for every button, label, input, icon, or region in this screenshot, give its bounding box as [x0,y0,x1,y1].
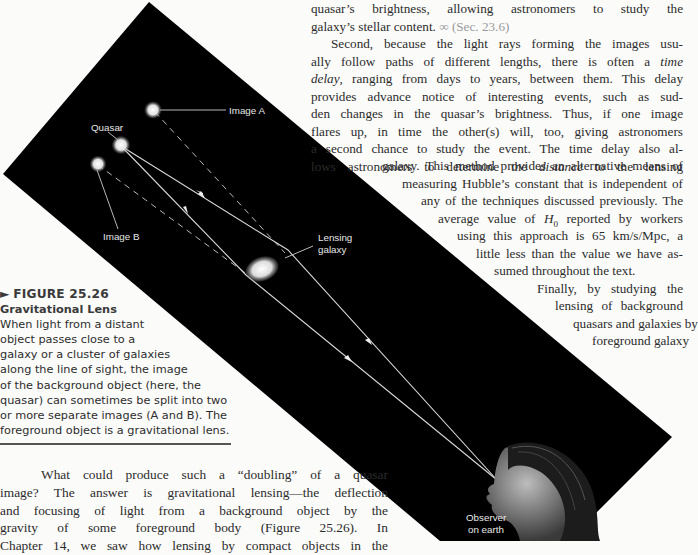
figure-number: FIGURE 25.26 [13,287,109,301]
quasar-dot [112,136,131,155]
label-image-b: Image B [103,231,140,242]
caption-divider [0,443,231,445]
cross-reference-link[interactable]: (Sec. 23.6) [452,19,510,34]
third-paragraph: Finally, by studying the [537,280,683,298]
figure-title: Gravitational Lens [0,302,232,317]
second-paragraph: Second, because the light rays forming t… [311,35,683,175]
top-paragraph: quasar’s brightness, allowing astronomer… [311,0,683,35]
cross-reference-icon[interactable]: ∞ [439,19,448,34]
label-lensing-1: Lensing [318,232,352,243]
figure-caption: ► FIGURE 25.26 Gravitational Lens When l… [0,287,232,438]
image-a-dot [144,101,162,119]
label-observer-1: Observer [466,512,507,523]
figure-marker-icon: ► [0,287,10,301]
image-b-dot [90,156,107,173]
label-lensing-2: galaxy [318,244,346,255]
label-quasar: Quasar [91,122,124,133]
bottom-paragraph: What could produce such a “doubling” of … [0,466,388,555]
label-observer-2: on earth [468,524,504,535]
label-image-a: Image A [229,105,265,116]
